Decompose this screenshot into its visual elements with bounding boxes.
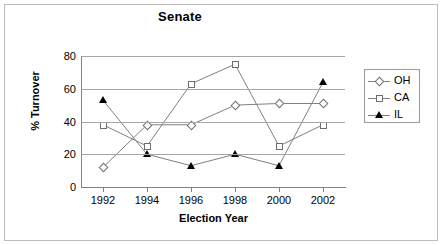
x-axis-line (81, 187, 346, 188)
x-tick-label: 1996 (167, 194, 215, 206)
legend-item-il: IL (365, 106, 421, 123)
gridline (81, 122, 345, 123)
open-square-marker-icon (365, 90, 393, 106)
x-tick-label: 1992 (79, 194, 127, 206)
x-tick-label: 2002 (299, 194, 347, 206)
gridline (81, 89, 345, 90)
chart-container: Senate 020406080 19921994199619982000200… (0, 0, 442, 245)
legend-item-oh: OH (365, 72, 421, 89)
chart-title: Senate (0, 9, 360, 24)
y-tick-label: 0 (48, 182, 76, 193)
legend-label: IL (393, 109, 403, 120)
gridline (81, 154, 345, 155)
series-line-oh (103, 103, 323, 167)
series-line-ca (103, 64, 323, 146)
open-diamond-marker-icon (365, 73, 393, 89)
x-tick-mark (279, 188, 280, 192)
legend-label: OH (393, 75, 411, 86)
gridline (81, 56, 345, 57)
y-tick-label: 40 (48, 117, 76, 128)
x-tick-label: 2000 (255, 194, 303, 206)
legend-item-ca: CA (365, 89, 421, 106)
y-tick-label: 20 (48, 149, 76, 160)
x-tick-mark (103, 188, 104, 192)
y-tick-label: 60 (48, 84, 76, 95)
x-tick-label: 1994 (123, 194, 171, 206)
filled-triangle-marker-icon (365, 107, 393, 123)
x-tick-mark (191, 188, 192, 192)
x-axis-title: Election Year (81, 212, 346, 224)
x-tick-mark (323, 188, 324, 192)
plot-area (81, 56, 345, 187)
chart-legend: OHCAIL (364, 69, 420, 123)
legend-label: CA (393, 92, 409, 103)
y-axis-title: % Turnover (29, 46, 41, 156)
x-tick-mark (147, 188, 148, 192)
x-tick-label: 1998 (211, 194, 259, 206)
x-tick-mark (235, 188, 236, 192)
y-tick-label: 80 (48, 51, 76, 62)
